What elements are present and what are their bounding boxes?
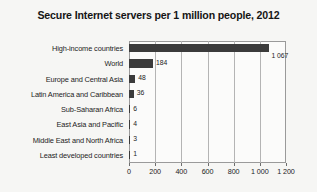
bar-row[interactable]: 4 (129, 117, 286, 132)
bar[interactable] (129, 120, 130, 128)
chart-title: Secure Internet servers per 1 million pe… (0, 9, 317, 21)
bar[interactable] (129, 75, 135, 83)
category-label: East Asia and Pacific (0, 120, 123, 129)
x-tick-mark (286, 163, 287, 166)
category-label: Europe and Central Asia (0, 75, 123, 84)
bar-row[interactable]: 1 (129, 148, 286, 163)
x-axis: 02004006008001 0001 200 (129, 163, 286, 181)
x-tick-label: 1 200 (266, 167, 306, 176)
category-axis-labels: High-income countriesWorldEurope and Cen… (0, 41, 126, 163)
x-tick-mark (234, 163, 235, 166)
bar[interactable] (129, 105, 130, 113)
plot-area: 1 06718448366431 (129, 41, 286, 163)
bar[interactable] (129, 44, 269, 52)
bar[interactable] (129, 90, 134, 98)
category-label: World (0, 59, 123, 68)
category-label: Least developed countries (0, 151, 123, 160)
category-label: Middle East and North Africa (0, 136, 123, 145)
x-tick-mark (181, 163, 182, 166)
bar-row[interactable]: 1 067 (129, 41, 286, 56)
bar-series: 1 06718448366431 (129, 41, 286, 163)
bar-value-label: 184 (156, 59, 167, 66)
chart-figure: Secure Internet servers per 1 million pe… (0, 0, 317, 192)
bar[interactable] (129, 151, 130, 159)
bar-value-label: 1 (133, 150, 137, 157)
bar-row[interactable]: 6 (129, 102, 286, 117)
bar-value-label: 36 (137, 89, 144, 96)
x-tick-mark (208, 163, 209, 166)
bar[interactable] (129, 136, 130, 144)
bar[interactable] (129, 59, 153, 67)
x-tick-mark (129, 163, 130, 166)
bar-value-label: 48 (138, 74, 145, 81)
x-tick-mark (155, 163, 156, 166)
category-label: Sub-Saharan Africa (0, 105, 123, 114)
bar-row[interactable]: 48 (129, 72, 286, 87)
bar-value-label: 6 (133, 105, 137, 112)
bar-row[interactable]: 36 (129, 87, 286, 102)
bar-row[interactable]: 3 (129, 133, 286, 148)
x-tick-mark (260, 163, 261, 166)
category-label: Latin America and Caribbean (0, 90, 123, 99)
bar-value-label: 4 (133, 120, 137, 127)
bar-value-label: 3 (133, 135, 137, 142)
category-label: High-income countries (0, 44, 123, 53)
bar-row[interactable]: 184 (129, 56, 286, 71)
